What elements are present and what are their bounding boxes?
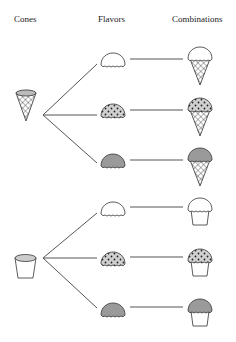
cone-icon bbox=[16, 90, 36, 121]
combo-cup-white-icon bbox=[188, 198, 212, 225]
combo-cone-dotted-icon bbox=[188, 98, 212, 136]
flavor-dark-scoop-icon bbox=[101, 154, 125, 168]
flavor-dotted-scoop-icon bbox=[101, 252, 125, 266]
flavor-dotted-scoop-icon bbox=[101, 104, 125, 118]
combo-cone-white-icon bbox=[188, 47, 212, 85]
tree-diagram bbox=[0, 0, 236, 342]
flavor-white-scoop-icon bbox=[101, 53, 125, 67]
combination-lines bbox=[130, 59, 183, 307]
combo-cup-dark-icon bbox=[188, 299, 212, 326]
flavor-white-scoop-icon bbox=[101, 202, 125, 216]
cone-branches bbox=[43, 64, 97, 163]
flavor-dark-scoop-icon bbox=[101, 303, 125, 317]
cup-branches bbox=[43, 213, 97, 308]
combo-cone-dark-icon bbox=[188, 148, 212, 186]
combo-cup-dotted-icon bbox=[188, 249, 212, 276]
cup-icon bbox=[15, 255, 36, 279]
